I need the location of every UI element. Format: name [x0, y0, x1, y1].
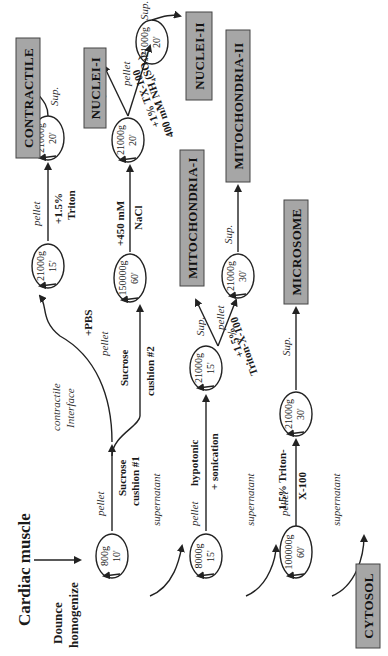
svg-text:150000g: 150000g [117, 261, 128, 296]
svg-text:30': 30' [295, 408, 306, 420]
label-sup-contractile: Sup. [48, 87, 60, 106]
svg-text:800g: 800g [99, 546, 110, 566]
contractile-line1: contractile [50, 383, 62, 431]
label-supernatant-1: supernatant [150, 473, 162, 527]
label-pellet-1: pellet [94, 491, 106, 517]
arrow-supernatant-2 [246, 546, 276, 596]
svg-text:21000g: 21000g [35, 251, 46, 281]
fraction-microsome: MICROSOME [284, 200, 308, 304]
label-sup-mito2: Sup. [222, 225, 234, 244]
svg-text:21000g: 21000g [115, 125, 126, 155]
svg-text:21000g: 21000g [283, 399, 294, 429]
svg-text:20': 20' [151, 36, 162, 48]
label-pellet-5: pellet [98, 331, 110, 357]
centrifuge-c9: 21000g 15' [190, 346, 222, 390]
pbs-label: +PBS [82, 310, 94, 336]
centrifuge-c6: 150000g 60' [114, 254, 146, 302]
svg-text:20': 20' [47, 132, 58, 144]
sucrose1-line1: Sucrose [116, 459, 128, 496]
svg-text:21000g: 21000g [193, 353, 204, 383]
diagram-canvas: Cardiac muscle Dounce homogenize 800g 10… [0, 0, 388, 656]
centrifuge-c2: 8000g 15' [190, 534, 222, 578]
fraction-mitochondria-i: MITOCHONDRIA-I [180, 150, 204, 286]
fractionation-diagram: Cardiac muscle Dounce homogenize 800g 10… [0, 0, 388, 656]
sucrose2-line1: Sucrose [118, 349, 130, 386]
label-pellet-2: pellet [188, 501, 200, 527]
label-pellet-9: pellet [214, 305, 226, 331]
nacl-line1: +450 mM [114, 200, 126, 246]
fraction-nuclei-i: NUCLEI-I [84, 48, 106, 128]
contractile-line2: Interface [64, 388, 76, 429]
svg-text:MITOCHONDRIA-I: MITOCHONDRIA-I [185, 157, 200, 279]
svg-text:MICROSOME: MICROSOME [289, 208, 304, 295]
centrifuge-c1: 800g 10' [96, 534, 128, 578]
triton-micro-line1: 1.5% Triton- [276, 449, 288, 510]
svg-text:NUCLEI-I: NUCLEI-I [88, 57, 103, 119]
dounce-label-2: homogenize [66, 582, 81, 648]
svg-text:21000g: 21000g [225, 261, 236, 291]
hypotonic-line1: hypotonic [188, 439, 200, 486]
svg-text:21000g: 21000g [139, 27, 150, 57]
sucrose2-line2: cushion #2 [144, 346, 156, 396]
label-sup-mito1: Sup. [194, 317, 206, 336]
centrifuge-c11: 21000g 30' [280, 392, 312, 436]
triton-line1: +1.5% [52, 193, 64, 224]
arrow-supernatant-1 [150, 546, 182, 596]
connector-sucrose2 [112, 416, 140, 456]
arrow-sup-nuclei2 [152, 15, 180, 20]
fraction-cytosol: CYTOSOL [356, 564, 380, 648]
svg-text:20': 20' [127, 134, 138, 146]
centrifuge-c7: 21000g 20' [112, 118, 144, 162]
svg-text:15': 15' [205, 362, 216, 374]
svg-text:MITOCHONDRIA-II: MITOCHONDRIA-II [231, 42, 246, 169]
centrifuge-c10: 21000g 30' [222, 254, 254, 298]
svg-text:60': 60' [295, 546, 306, 558]
sucrose1-line2: cushion #1 [129, 456, 141, 506]
svg-text:100000g: 100000g [283, 535, 294, 570]
nacl-line2: NaCl [132, 206, 144, 230]
svg-text:CONTRACTILE: CONTRACTILE [21, 48, 36, 148]
svg-text:10': 10' [111, 550, 122, 562]
centrifuge-c3: 100000g 60' [280, 526, 312, 578]
label-supernatant-2: supernatant [244, 473, 256, 527]
fraction-mitochondria-ii: MITOCHONDRIA-II [226, 30, 250, 182]
centrifuge-c4: 21000g 15' [32, 244, 64, 288]
svg-text:15': 15' [47, 260, 58, 272]
svg-text:CYTOSOL: CYTOSOL [361, 573, 376, 638]
label-pellet-4: pellet [30, 201, 42, 227]
triton-line2: Triton [65, 190, 77, 220]
label-sup-nuclei2: Sup. [138, 1, 150, 20]
centrifuge-c8: 21000g 20' [136, 20, 168, 64]
triton-micro-line2: X-100 [296, 471, 308, 500]
svg-text:8000g: 8000g [193, 544, 204, 569]
svg-text:30': 30' [237, 270, 248, 282]
hypotonic-line2: + sonication [208, 433, 220, 490]
label-sup-microsome: Sup. [280, 337, 292, 356]
fraction-nuclei-ii: NUCLEI-II [186, 12, 212, 100]
dounce-label-1: Dounce [50, 602, 65, 644]
fraction-contractile: CONTRACTILE [16, 38, 40, 158]
svg-text:15': 15' [205, 550, 216, 562]
label-supernatant-3: supernatant [330, 473, 342, 527]
svg-text:NUCLEI-II: NUCLEI-II [192, 22, 207, 90]
svg-text:60': 60' [129, 272, 140, 284]
title-cardiac-muscle: Cardiac muscle [15, 513, 34, 626]
